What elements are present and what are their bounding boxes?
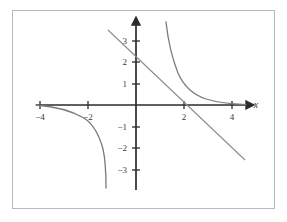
y-tick-label--2: −2 <box>117 143 127 153</box>
x-tick-label--4: −4 <box>35 112 45 122</box>
figure-root: −4 −2 2 4 3 2 1 −1 −2 −3 x <box>0 0 287 222</box>
x-tick-label-4: 4 <box>230 112 235 122</box>
tangent-line <box>108 30 245 160</box>
x-axis-label: x <box>253 99 259 110</box>
y-tick-label-1: 1 <box>123 79 128 89</box>
curve-right-branch <box>166 22 246 105</box>
curve-left-branch <box>36 105 106 188</box>
x-tick-labels: −4 −2 2 4 <box>35 112 235 122</box>
y-tick-label--3: −3 <box>117 165 127 175</box>
graph-canvas: −4 −2 2 4 3 2 1 −1 −2 −3 x <box>0 0 287 222</box>
y-tick-label--1: −1 <box>117 122 127 132</box>
y-tick-label-2: 2 <box>123 57 128 67</box>
x-tick-label-2: 2 <box>182 112 187 122</box>
axes-group <box>36 24 247 190</box>
